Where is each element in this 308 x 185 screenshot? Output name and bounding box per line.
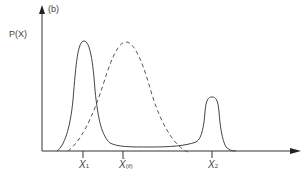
x1-label: X1 bbox=[79, 159, 89, 170]
panel-label: (b) bbox=[48, 4, 59, 14]
x-axis-arrow-icon bbox=[290, 148, 301, 154]
solid-distribution-curve bbox=[57, 41, 236, 151]
xif-label: X̄(if) bbox=[119, 159, 133, 170]
dashed-distribution-curve bbox=[68, 42, 188, 152]
chart-canvas bbox=[0, 0, 308, 185]
x1-label-main: X bbox=[79, 159, 86, 170]
x2-label-sub: 2 bbox=[215, 163, 218, 169]
x1-label-sub: 1 bbox=[86, 163, 89, 169]
xif-label-main: X̄ bbox=[119, 159, 126, 170]
y-axis-label: P(X) bbox=[9, 29, 27, 39]
x2-label-main: X bbox=[208, 159, 215, 170]
x2-label: X2 bbox=[208, 159, 218, 170]
xif-label-sub: (if) bbox=[126, 163, 133, 169]
y-axis-arrow-icon bbox=[39, 5, 45, 14]
